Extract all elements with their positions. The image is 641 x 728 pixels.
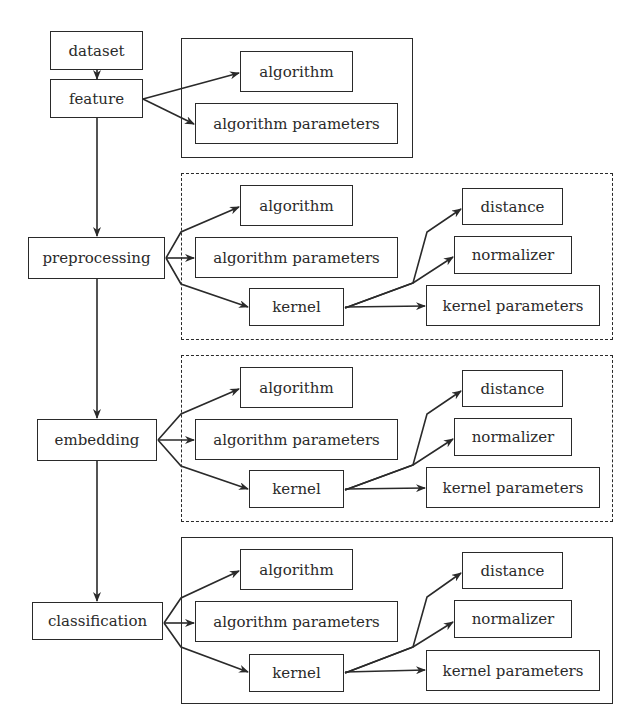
preprocessing-algorithm-node: algorithm bbox=[240, 185, 353, 226]
classification-kernel-node: kernel bbox=[249, 654, 344, 692]
classification-distance-node: distance bbox=[462, 552, 563, 589]
preprocessing-kernel-node: kernel bbox=[249, 288, 344, 326]
embedding-kernel-node: kernel bbox=[249, 470, 344, 508]
embedding-kernel-parameters-node: kernel parameters bbox=[426, 467, 600, 508]
classification-kernel-parameters-node: kernel parameters bbox=[426, 650, 600, 691]
feature-algorithm-parameters-node: algorithm parameters bbox=[195, 103, 398, 144]
embedding-algorithm-parameters-node: algorithm parameters bbox=[195, 419, 398, 460]
embedding-algorithm-node: algorithm bbox=[240, 367, 353, 408]
preprocessing-node: preprocessing bbox=[28, 237, 165, 279]
dataset-node: dataset bbox=[50, 31, 143, 70]
preprocessing-algorithm-parameters-node: algorithm parameters bbox=[195, 237, 398, 278]
classification-algorithm-parameters-node: algorithm parameters bbox=[195, 601, 398, 642]
embedding-normalizer-node: normalizer bbox=[454, 418, 572, 456]
preprocessing-distance-node: distance bbox=[462, 188, 563, 225]
preprocessing-normalizer-node: normalizer bbox=[454, 236, 572, 274]
classification-node: classification bbox=[32, 602, 163, 640]
embedding-node: embedding bbox=[37, 419, 157, 461]
feature-node: feature bbox=[50, 79, 143, 118]
preprocessing-kernel-parameters-node: kernel parameters bbox=[426, 285, 600, 326]
classification-algorithm-node: algorithm bbox=[240, 549, 353, 590]
classification-normalizer-node: normalizer bbox=[454, 600, 572, 638]
embedding-distance-node: distance bbox=[462, 370, 563, 407]
feature-algorithm-node: algorithm bbox=[240, 51, 353, 92]
